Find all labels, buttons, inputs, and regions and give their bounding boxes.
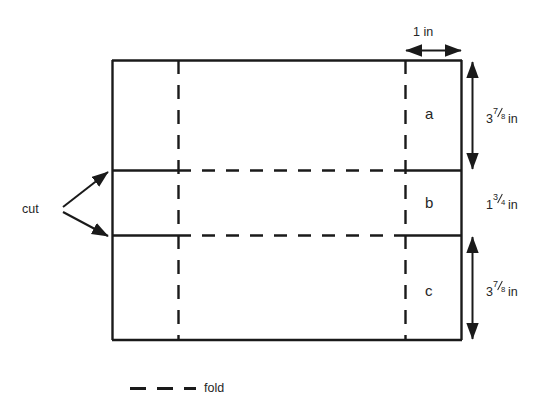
- section-a-whole-number: 3: [486, 112, 493, 126]
- section-c-fraction: 78: [493, 283, 505, 296]
- cut-annotation-label: cut: [22, 203, 39, 216]
- dimension-label-top-width: 1 in: [413, 26, 433, 39]
- section-c-unit: in: [508, 285, 518, 299]
- section-b-denominator: 4: [501, 199, 505, 207]
- template-outline: [112, 60, 462, 340]
- cut-leader-arrow-upper: [63, 172, 108, 207]
- section-b-whole-number: 1: [486, 198, 493, 212]
- box-template-diagram: [0, 0, 550, 411]
- cut-leader-arrow-lower: [63, 212, 108, 236]
- dimension-label-section-c: 378 in: [486, 283, 518, 298]
- section-c-whole-number: 3: [486, 285, 493, 299]
- section-c-denominator: 8: [501, 286, 505, 294]
- section-a-denominator: 8: [501, 113, 505, 121]
- diagram-canvas: 1 in 378 in 134 in 378 in a b c cut fold: [0, 0, 550, 411]
- dimension-label-section-a: 378 in: [486, 110, 518, 125]
- panel-label-b: b: [425, 195, 433, 210]
- panel-label-c: c: [425, 283, 433, 298]
- section-a-fraction: 78: [493, 110, 505, 123]
- section-a-unit: in: [508, 112, 518, 126]
- legend-fold-label: fold: [204, 382, 224, 395]
- dimension-label-section-b: 134 in: [486, 196, 518, 211]
- section-b-unit: in: [508, 198, 518, 212]
- section-b-fraction: 34: [493, 196, 505, 209]
- panel-label-a: a: [425, 106, 433, 121]
